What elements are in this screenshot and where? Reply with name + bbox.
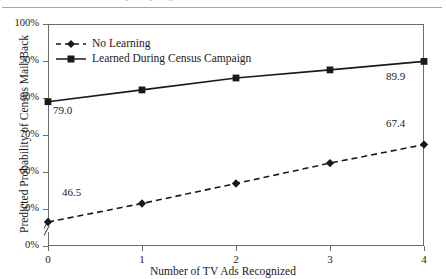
series-no-learning-markers	[44, 140, 428, 226]
data-point	[232, 179, 240, 187]
legend-label-no-learning: No Learning	[92, 36, 150, 51]
chart-legend: No Learning Learned During Census Campai…	[56, 36, 251, 66]
data-point	[421, 58, 428, 65]
legend-item-learned: Learned During Census Campaign	[56, 51, 251, 66]
legend-label-learned: Learned During Census Campaign	[92, 51, 251, 66]
data-point	[233, 75, 240, 82]
data-point	[326, 159, 334, 167]
data-point	[138, 199, 146, 207]
data-point	[420, 140, 428, 148]
value-label-no-learning-x0: 46.5	[62, 186, 81, 198]
line-chart: 100% 90% 80% 70% 60% 50% 0% 0 1 2 3 4 Nu…	[0, 0, 446, 279]
legend-key-dashed-diamond	[56, 37, 86, 51]
chart-page: attitudes toward participating in the ce…	[0, 0, 446, 279]
series-learned-line	[48, 61, 424, 101]
value-label-learned-x4: 89.9	[386, 70, 405, 82]
data-point	[327, 67, 334, 74]
legend-item-no-learning: No Learning	[56, 36, 251, 51]
data-point	[139, 87, 146, 94]
value-label-no-learning-x4: 67.4	[386, 117, 405, 129]
value-label-learned-x0: 79.0	[53, 104, 72, 116]
legend-key-solid-square	[56, 52, 86, 66]
data-point	[45, 98, 52, 105]
data-point	[44, 218, 52, 226]
